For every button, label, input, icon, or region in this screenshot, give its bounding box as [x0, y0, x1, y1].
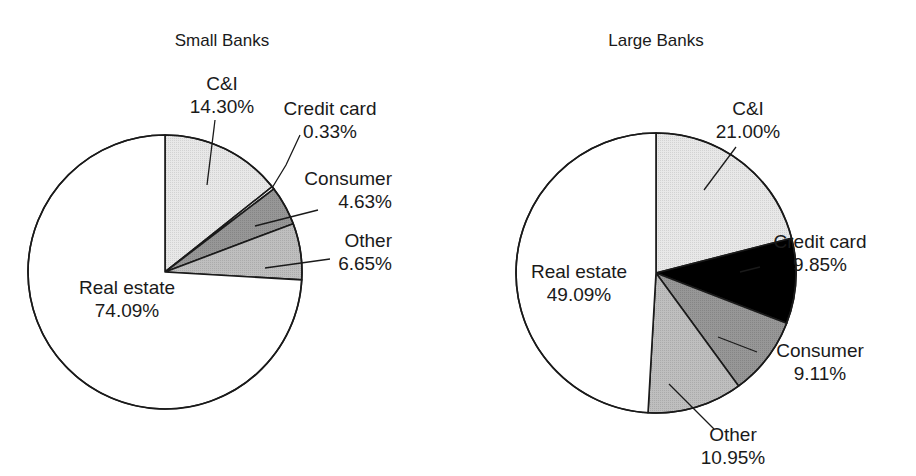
slice-label-value: 14.30%	[190, 96, 255, 117]
slice-label-name: Consumer	[304, 168, 392, 189]
pie-chart-figure: Small Banks C&I14.30%Credit card0.33%Con…	[0, 0, 916, 476]
slice-label-name: Other	[709, 424, 757, 445]
slice-label-value: 9.11%	[794, 363, 847, 384]
slice-label-value: 21.00%	[716, 121, 781, 142]
chart-title-small-banks: Small Banks	[175, 31, 269, 50]
slice-label-name: C&I	[732, 98, 764, 119]
slice-label-value: 74.09%	[95, 300, 160, 321]
slice-label-value: 4.63%	[338, 191, 392, 212]
slice-label-name: Credit card	[774, 231, 867, 252]
pie-slices-small-banks	[28, 135, 302, 409]
slice-label-value: 6.65%	[338, 253, 392, 274]
slice-label-value: 10.95%	[701, 447, 766, 468]
chart-title-large-banks: Large Banks	[608, 31, 703, 50]
slice-label-value: 49.09%	[547, 284, 612, 305]
slice-label-name: Real estate	[531, 261, 627, 282]
slice-label-name: Other	[344, 230, 392, 251]
slice-label-value: 9.85%	[793, 254, 847, 275]
slice-label-name: Credit card	[284, 98, 377, 119]
slice-label-value: 0.33%	[303, 121, 357, 142]
slice-label-name: C&I	[206, 73, 238, 94]
slice-label-name: Consumer	[776, 340, 864, 361]
slice-label-name: Real estate	[79, 277, 175, 298]
